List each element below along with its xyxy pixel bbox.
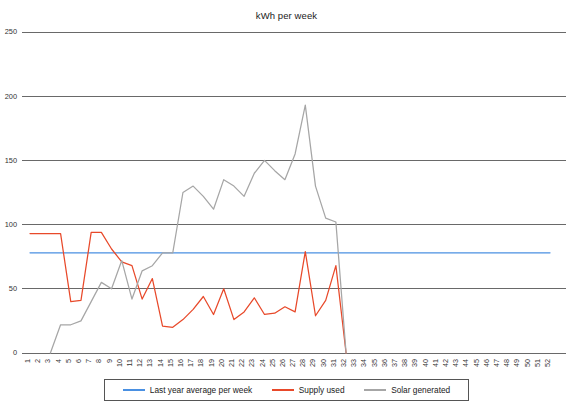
x-axis-tick-label: 32	[339, 359, 348, 367]
y-axis-tick-label: 250	[5, 27, 17, 36]
x-axis-tick-label: 48	[502, 359, 511, 367]
x-axis-tick-label: 47	[492, 359, 501, 367]
legend-label-solar-generated: Solar generated	[391, 385, 450, 395]
chart-legend: Last year average per week Supply used S…	[104, 379, 469, 401]
x-axis-tick-label: 1	[23, 359, 32, 363]
x-axis-tick-label: 10	[115, 359, 124, 367]
x-axis-tick-label: 2	[33, 359, 42, 363]
x-axis-tick-label: 19	[207, 359, 216, 367]
x-axis-tick-label: 12	[135, 359, 144, 367]
x-axis-tick-label: 49	[512, 359, 521, 367]
x-axis-tick-label: 31	[329, 359, 338, 367]
x-axis-tick-label: 11	[125, 359, 134, 366]
legend-label-last-year-average: Last year average per week	[150, 385, 252, 395]
x-axis-tick-label: 22	[237, 359, 246, 367]
x-axis-tick-label: 41	[431, 359, 440, 367]
x-axis-tick-label: 15	[166, 359, 175, 367]
x-axis-tick-label: 43	[451, 359, 460, 367]
x-axis-tick-label: 34	[359, 359, 368, 367]
y-axis-tick-label: 150	[5, 156, 17, 165]
x-axis-tick-label: 8	[94, 359, 103, 363]
x-axis-tick-label: 35	[370, 359, 379, 367]
x-axis-tick-label: 40	[421, 359, 430, 367]
x-axis-tick-label: 6	[74, 359, 83, 363]
x-axis-tick-label: 20	[217, 359, 226, 367]
y-axis-tick-label: 100	[5, 220, 17, 229]
legend-swatch-supply-used	[272, 389, 294, 391]
legend-item-supply-used: Supply used	[272, 385, 345, 395]
chart-container: kWh per week 050100150200250123456789101…	[0, 0, 573, 409]
x-axis-tick-label: 7	[84, 359, 93, 363]
x-axis-tick-label: 42	[441, 359, 450, 367]
y-axis-tick-label: 50	[9, 284, 17, 293]
x-axis-tick-label: 9	[105, 359, 114, 363]
x-axis-tick-label: 16	[176, 359, 185, 367]
x-axis-tick-label: 24	[258, 359, 267, 367]
x-axis-tick-label: 13	[145, 359, 154, 367]
x-axis-tick-label: 52	[543, 359, 552, 367]
x-axis-tick-label: 25	[268, 359, 277, 367]
x-axis-tick-label: 23	[247, 359, 256, 367]
x-axis-tick-label: 4	[54, 359, 63, 363]
x-axis-tick-label: 29	[308, 359, 317, 367]
x-axis-tick-label: 51	[533, 359, 542, 367]
y-axis-tick-label: 200	[5, 92, 17, 101]
x-axis-tick-label: 37	[390, 359, 399, 367]
legend-item-solar-generated: Solar generated	[364, 385, 450, 395]
x-axis-tick-label: 39	[410, 359, 419, 367]
x-axis-tick-label: 44	[461, 359, 470, 367]
series-line-supply-used	[30, 232, 346, 353]
x-axis-tick-label: 45	[472, 359, 481, 367]
x-axis-tick-label: 33	[349, 359, 358, 367]
chart-plot-area: 0501001502002501234567891011121314151617…	[0, 0, 573, 409]
series-line-solar-generated	[50, 105, 346, 353]
x-axis-tick-label: 21	[227, 359, 236, 367]
x-axis-tick-label: 5	[64, 359, 73, 363]
x-axis-tick-label: 30	[319, 359, 328, 367]
legend-label-supply-used: Supply used	[299, 385, 345, 395]
y-axis-tick-label: 0	[13, 348, 17, 357]
legend-swatch-solar-generated	[364, 389, 386, 391]
x-axis-tick-label: 36	[380, 359, 389, 367]
x-axis-tick-label: 3	[43, 359, 52, 363]
x-axis-tick-label: 28	[298, 359, 307, 367]
x-axis-tick-label: 26	[278, 359, 287, 367]
x-axis-tick-label: 18	[196, 359, 205, 367]
legend-item-last-year-average: Last year average per week	[123, 385, 252, 395]
x-axis-tick-label: 14	[156, 359, 165, 367]
x-axis-tick-label: 46	[482, 359, 491, 367]
x-axis-tick-label: 27	[288, 359, 297, 367]
x-axis-tick-label: 50	[523, 359, 532, 367]
x-axis-tick-label: 38	[400, 359, 409, 367]
legend-swatch-last-year-average	[123, 389, 145, 391]
x-axis-tick-label: 17	[186, 359, 195, 367]
